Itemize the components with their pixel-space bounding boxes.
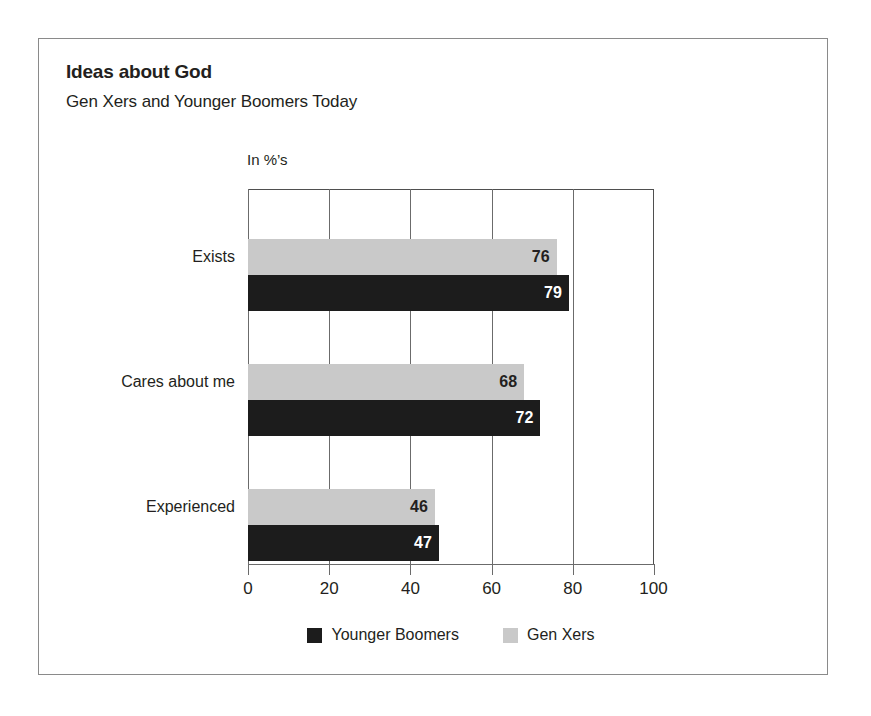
legend-label-gen-xers: Gen Xers bbox=[527, 626, 595, 644]
category-axis-labels: Exists Cares about me Experienced bbox=[39, 189, 235, 564]
bar-younger-boomers-cares-about-me: 72 bbox=[248, 400, 540, 436]
xtick-label-80: 80 bbox=[563, 579, 582, 599]
category-label-cares-about-me: Cares about me bbox=[121, 373, 235, 391]
bar-value-younger-boomers-exists: 79 bbox=[544, 285, 562, 301]
legend-swatch-gen-xers bbox=[503, 628, 518, 643]
bar-value-gen-xers-cares-about-me: 68 bbox=[499, 374, 517, 390]
bar-younger-boomers-exists: 79 bbox=[248, 275, 569, 311]
chart-title: Ideas about God bbox=[66, 61, 212, 83]
xtick-label-40: 40 bbox=[401, 579, 420, 599]
xtick-label-0: 0 bbox=[243, 579, 252, 599]
bar-value-younger-boomers-experienced: 47 bbox=[414, 535, 432, 551]
chart-figure: Ideas about God Gen Xers and Younger Boo… bbox=[38, 38, 828, 675]
chart-subtitle: Gen Xers and Younger Boomers Today bbox=[66, 92, 357, 112]
bar-gen-xers-experienced: 46 bbox=[248, 489, 435, 525]
tickmark-0 bbox=[248, 564, 249, 575]
tickmark-60 bbox=[492, 564, 493, 575]
x-axis-line bbox=[248, 564, 654, 565]
bar-younger-boomers-experienced: 47 bbox=[248, 525, 439, 561]
bar-gen-xers-exists: 76 bbox=[248, 239, 557, 275]
xtick-label-20: 20 bbox=[320, 579, 339, 599]
bar-gen-xers-cares-about-me: 68 bbox=[248, 364, 524, 400]
axis-units-label: In %’s bbox=[247, 151, 288, 168]
plot-top-border bbox=[248, 189, 654, 190]
bar-value-gen-xers-exists: 76 bbox=[532, 249, 550, 265]
legend-swatch-younger-boomers bbox=[307, 628, 322, 643]
legend-label-younger-boomers: Younger Boomers bbox=[331, 626, 459, 644]
tickmark-80 bbox=[573, 564, 574, 575]
bar-value-younger-boomers-cares-about-me: 72 bbox=[516, 410, 534, 426]
xtick-label-60: 60 bbox=[482, 579, 501, 599]
gridline-80 bbox=[573, 189, 574, 564]
legend-item-gen-xers: Gen Xers bbox=[503, 626, 595, 644]
tickmark-40 bbox=[410, 564, 411, 575]
category-label-experienced: Experienced bbox=[146, 498, 235, 516]
bar-value-gen-xers-experienced: 46 bbox=[410, 499, 428, 515]
chart-legend: Younger Boomers Gen Xers bbox=[248, 626, 654, 644]
plot-area: 76 79 68 72 46 47 0 20 40 60 80 100 bbox=[248, 189, 654, 564]
category-label-exists: Exists bbox=[192, 248, 235, 266]
legend-item-younger-boomers: Younger Boomers bbox=[307, 626, 459, 644]
tickmark-100 bbox=[654, 564, 655, 575]
plot-right-border bbox=[653, 189, 654, 564]
tickmark-20 bbox=[329, 564, 330, 575]
xtick-label-100: 100 bbox=[639, 579, 667, 599]
